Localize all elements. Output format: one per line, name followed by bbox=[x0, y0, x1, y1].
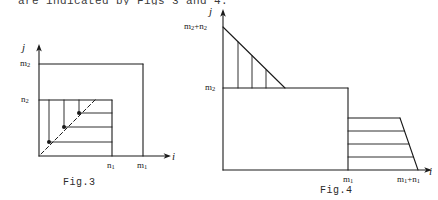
fig4-x-tick-sum-sub2: 1 bbox=[417, 177, 420, 184]
fig3-x-tick-m1-sub: 1 bbox=[144, 163, 147, 170]
figure-4-drawing bbox=[170, 0, 438, 200]
fig4-y-tick-m2-base: m bbox=[205, 82, 212, 92]
figure-page: are indicated by Figs 3 and 4. bbox=[0, 0, 438, 200]
fig3-x-tick-n1: n1 bbox=[107, 161, 115, 171]
fig4-x-tick-m1-plus-n1: m1+n1 bbox=[397, 175, 420, 185]
fig3-marker-1 bbox=[47, 140, 51, 144]
fig3-y-tick-m2-base: m bbox=[20, 58, 27, 68]
fig3-marker-2 bbox=[62, 125, 66, 129]
figure-3: j i m2 n2 n1 m1 Fig.3 bbox=[0, 14, 190, 200]
fig3-x-tick-m1: m1 bbox=[137, 161, 147, 171]
figure-3-drawing bbox=[0, 14, 190, 200]
fig4-x-tick-m1-sub: 1 bbox=[350, 177, 353, 184]
fig4-upper-triangle-hypotenuse bbox=[223, 27, 285, 88]
fig4-caption: Fig.4 bbox=[320, 185, 353, 196]
fig3-y-tick-m2-sub: 2 bbox=[27, 61, 30, 68]
fig4-y-tick-m2: m2 bbox=[205, 83, 215, 93]
fig3-x-tick-m1-base: m bbox=[137, 160, 144, 170]
fig4-y-axis-label: j bbox=[209, 6, 212, 17]
fig4-y-tick-sum-sub2: 2 bbox=[204, 24, 207, 31]
fig4-x-tick-m1-base: m bbox=[343, 174, 350, 184]
fig3-y-tick-m2: m2 bbox=[20, 59, 30, 69]
fig4-x-axis-label: i bbox=[429, 166, 432, 177]
fig4-x-tick-sum-base1: m bbox=[397, 174, 404, 184]
fig3-y-axis-label: j bbox=[22, 42, 25, 53]
fig4-y-tick-m2-plus-n2: m2+n2 bbox=[184, 22, 207, 32]
fig3-caption: Fig.3 bbox=[63, 177, 96, 188]
figure-4: j i m2+n2 m2 m1 m1+n1 Fig.4 bbox=[170, 0, 438, 200]
fig3-marker-3 bbox=[77, 111, 81, 115]
fig4-y-tick-sum-base1: m bbox=[184, 21, 191, 31]
fig3-y-tick-n2: n2 bbox=[21, 95, 29, 105]
fig4-y-tick-m2-sub: 2 bbox=[212, 85, 215, 92]
fig3-x-tick-n1-sub: 1 bbox=[112, 163, 115, 170]
fig3-y-tick-n2-sub: 2 bbox=[26, 97, 29, 104]
fig4-x-tick-m1: m1 bbox=[343, 175, 353, 185]
